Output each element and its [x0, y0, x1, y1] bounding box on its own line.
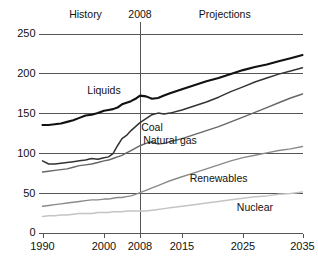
y-axis-label-100: 100: [17, 147, 35, 159]
x-axis-label-1990: 1990: [30, 240, 54, 252]
y-axis-label-250: 250: [17, 27, 35, 39]
series-line-coal: [43, 68, 303, 164]
series-label-renewables: Renewables: [190, 172, 248, 184]
y-axis-label-50: 50: [23, 187, 35, 199]
series-line-renewables: [43, 147, 303, 207]
x-axis-label-2025: 2025: [231, 240, 255, 252]
y-tick-marks-group: [39, 35, 43, 234]
y-axis-label-200: 200: [17, 67, 35, 79]
chart-canvas: 050100150200250 199020002008201520252035…: [0, 0, 318, 264]
x-axis-label-2035: 2035: [290, 240, 314, 252]
series-label-nuclear: Nuclear: [237, 201, 274, 213]
x-axis-label-2015: 2015: [170, 240, 194, 252]
x-axis-labels-group: 199020002008201520252035: [30, 240, 314, 252]
series-label-natural-gas: Natural gas: [143, 134, 197, 146]
annotation-projections: Projections: [199, 8, 251, 20]
annotation-history: History: [69, 8, 102, 20]
y-axis-labels-group: 050100150200250: [17, 27, 35, 238]
x-axis-label-2000: 2000: [92, 240, 116, 252]
series-line-liquids: [43, 55, 303, 125]
series-label-coal: Coal: [141, 121, 163, 133]
annotation-2008: 2008: [128, 8, 152, 20]
x-axis-label-2008: 2008: [128, 240, 152, 252]
series-label-liquids: Liquids: [87, 84, 120, 96]
x-tick-marks-group: [43, 234, 304, 238]
energy-projection-chart: 050100150200250 199020002008201520252035…: [0, 0, 318, 264]
y-axis-label-150: 150: [17, 107, 35, 119]
period-annotations-group: History2008Projections: [69, 8, 250, 20]
y-axis-label-0: 0: [29, 226, 35, 238]
